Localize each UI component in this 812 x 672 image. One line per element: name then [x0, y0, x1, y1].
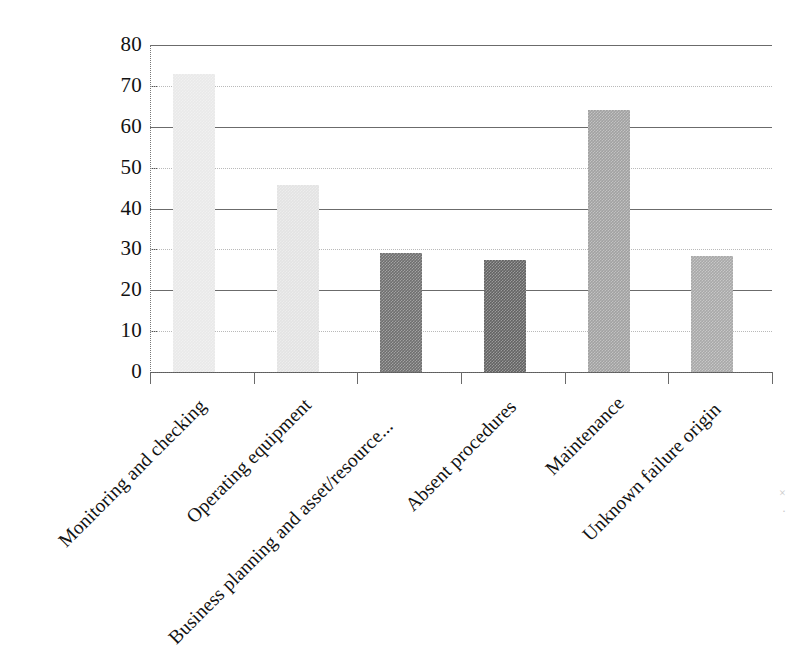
y-tick-label: 70	[96, 75, 142, 96]
y-tick-label: 10	[96, 320, 142, 341]
bar	[173, 74, 215, 372]
bar	[691, 256, 733, 372]
x-tick-mark	[150, 372, 151, 384]
bar	[380, 253, 422, 372]
x-category-label: Business planning and asset/resource...	[165, 416, 397, 648]
x-tick-mark	[461, 372, 462, 384]
x-category-label: Monitoring and checking	[55, 396, 210, 551]
bar-chart: 80706050403020100 Monitoring and checkin…	[0, 0, 812, 672]
x-tick-mark	[668, 372, 669, 384]
scan-speck-1: ×	[779, 487, 786, 499]
y-tick-label: 50	[96, 157, 142, 178]
y-tick-label: 40	[96, 198, 142, 219]
bar	[277, 185, 319, 372]
y-tick-label: 80	[96, 34, 142, 55]
x-tick-mark	[772, 372, 773, 384]
y-axis-line	[150, 45, 152, 373]
x-tick-mark	[565, 372, 566, 384]
x-tick-mark	[254, 372, 255, 384]
x-tick-mark	[357, 372, 358, 384]
y-tick-label: 0	[96, 361, 142, 382]
bar	[588, 110, 630, 372]
x-category-label: Maintenance	[542, 392, 628, 478]
y-tick-label: 30	[96, 238, 142, 259]
y-tick-label: 60	[96, 116, 142, 137]
bar	[484, 260, 526, 372]
bars	[150, 45, 772, 372]
plot-area	[150, 45, 772, 372]
y-tick-label: 20	[96, 279, 142, 300]
scan-speck-2: ·	[782, 505, 786, 517]
x-category-label: Absent procedures	[402, 396, 520, 514]
